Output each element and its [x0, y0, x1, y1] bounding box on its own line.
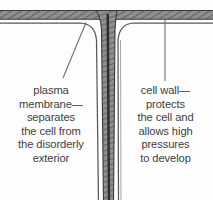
label-plasma-membrane-line-5: the disorderly [2, 138, 100, 152]
leader-line-plasma-membrane [63, 23, 86, 79]
label-plasma-membrane: plasma membrane— separates the cell from… [2, 84, 100, 166]
horizontal-cell-wall-left [0, 11, 104, 20]
horizontal-cell-wall-right [106, 11, 213, 20]
label-cell-wall-line-6: to develop [120, 152, 211, 166]
figure-container: plasma membrane— separates the cell from… [0, 0, 213, 200]
label-cell-wall-line-3: the cell and [120, 111, 211, 125]
label-cell-wall-line-1: cell wall— [120, 84, 211, 98]
label-cell-wall: cell wall— protects the cell and allows … [120, 84, 211, 166]
label-plasma-membrane-line-6: exterior [2, 152, 100, 166]
label-plasma-membrane-line-3: separates [2, 111, 100, 125]
label-cell-wall-line-5: pressures [120, 138, 211, 152]
label-plasma-membrane-line-1: plasma [2, 84, 100, 98]
label-plasma-membrane-line-2: membrane— [2, 98, 100, 112]
label-cell-wall-line-2: protects [120, 98, 211, 112]
label-plasma-membrane-line-4: the cell from [2, 125, 100, 139]
label-cell-wall-line-4: allows high [120, 125, 211, 139]
